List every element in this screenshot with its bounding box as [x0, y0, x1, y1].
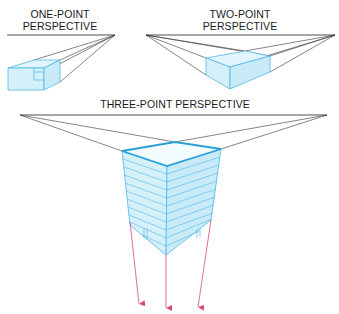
perspective-diagram — [0, 0, 339, 314]
three-point-diagram — [20, 115, 327, 308]
three-point-building-right-face — [166, 149, 221, 255]
two-point-vp-line-left — [146, 35, 206, 75]
two-point-vp-line-left — [146, 35, 206, 58]
two-point-diagram — [146, 35, 335, 89]
one-point-vp-line — [60, 35, 115, 60]
three-point-vp-line-left — [20, 115, 122, 151]
three-point-vp-line-right — [175, 115, 327, 142]
three-point-vp-line-right — [221, 115, 327, 149]
one-point-box-front — [8, 68, 44, 90]
three-point-vp-line-down — [130, 222, 139, 304]
one-point-diagram — [7, 35, 115, 90]
three-point-vp-line-left — [20, 115, 175, 142]
one-point-vp-line — [60, 35, 115, 82]
